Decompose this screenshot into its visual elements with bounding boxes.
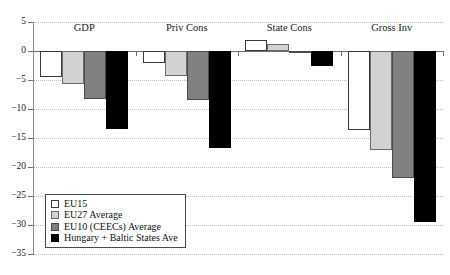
bar (311, 51, 333, 66)
bar (209, 51, 231, 148)
legend-label: Hungary + Baltic States Ave (64, 233, 178, 243)
legend-item: EU10 (CEECs) Average (51, 221, 178, 233)
bar (289, 51, 311, 53)
y-tick-mark (28, 254, 34, 255)
legend-label: EU15 (64, 199, 87, 209)
y-tick-label: −35 (0, 249, 26, 259)
y-tick-label: −25 (0, 191, 26, 201)
group-label-gross-inv: Gross Inv (371, 22, 412, 33)
bar (370, 51, 392, 150)
light-gray-swatch (51, 211, 59, 219)
gridline (33, 254, 443, 255)
bar (165, 51, 187, 76)
group-label-priv-cons: Priv Cons (166, 22, 208, 33)
bar (106, 51, 128, 129)
y-tick-label: −20 (0, 162, 26, 172)
bar (245, 40, 267, 51)
y-tick-label: −10 (0, 104, 26, 114)
y-tick-label: 5 (0, 17, 26, 27)
bar (84, 51, 106, 99)
legend-label: EU10 (CEECs) Average (64, 222, 161, 232)
legend-item: EU27 Average (51, 210, 178, 222)
bar (414, 51, 436, 222)
white-swatch (51, 200, 59, 208)
group-label-state-cons: State Cons (267, 22, 312, 33)
x-tick-mark (443, 51, 444, 56)
legend-item: EU15 (51, 198, 178, 210)
legend-label: EU27 Average (64, 210, 122, 220)
bar (392, 51, 414, 178)
y-tick-label: 0 (0, 46, 26, 56)
mid-gray-swatch (51, 223, 59, 231)
bar-chart: 50−5−10−15−20−25−30−35 GDPPriv ConsState… (0, 0, 450, 275)
bar (348, 51, 370, 130)
y-tick-label: −30 (0, 220, 26, 230)
y-tick-label: −5 (0, 75, 26, 85)
bar (143, 51, 165, 63)
bar (187, 51, 209, 100)
bar (62, 51, 84, 84)
y-tick-label: −15 (0, 133, 26, 143)
bar (40, 51, 62, 77)
legend-item: Hungary + Baltic States Ave (51, 233, 178, 245)
bar (267, 44, 289, 51)
chart-legend: EU15EU27 AverageEU10 (CEECs) AverageHung… (45, 194, 186, 248)
black-swatch (51, 234, 59, 242)
group-label-gdp: GDP (74, 22, 95, 33)
